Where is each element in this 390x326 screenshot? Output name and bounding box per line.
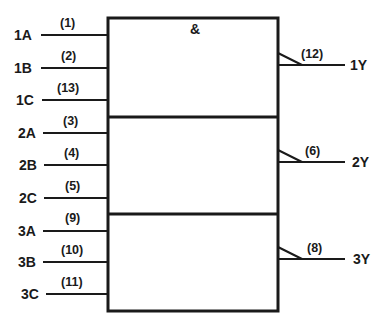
pin-number: (4) [64,146,79,160]
input-signal-label: 2B [19,157,37,173]
input-signal-label: 3B [18,254,36,270]
pin-number: (12) [301,47,323,61]
input-signal-label: 1C [16,92,34,108]
output-polarity-indicator-icon [278,53,302,65]
pin-number: (5) [65,179,80,193]
pin-number: (6) [305,144,320,158]
gate-2: 2A (3) 2B (4) 2C (5) (6) 2Y [18,114,370,206]
input-signal-label: 3A [18,223,36,239]
output-polarity-indicator-icon [278,247,302,259]
gate-block-outline [108,18,278,311]
input-signal-label: 2A [18,125,36,141]
pin-number: (9) [65,211,80,225]
output-signal-label: 3Y [353,251,371,267]
pin-number: (13) [57,81,79,95]
and-function-symbol: & [190,21,200,37]
logic-diagram: & 1A (1) 1B (2) 1C (13) (12) 1Y 2A (3) 2… [0,0,390,326]
output-signal-label: 1Y [350,57,368,73]
pin-number: (3) [63,114,78,128]
input-signal-label: 1B [14,60,32,76]
pin-number: (2) [61,49,76,63]
pin-number: (8) [307,241,322,255]
pin-number: (10) [61,243,83,257]
input-signal-label: 1A [14,27,32,43]
pin-number: (1) [60,16,75,30]
output-polarity-indicator-icon [278,150,302,162]
pin-number: (11) [61,275,83,289]
output-signal-label: 2Y [352,154,370,170]
gate-3: 3A (9) 3B (10) 3C (11) (8) 3Y [18,211,371,302]
input-signal-label: 3C [21,286,39,302]
input-signal-label: 2C [19,190,37,206]
